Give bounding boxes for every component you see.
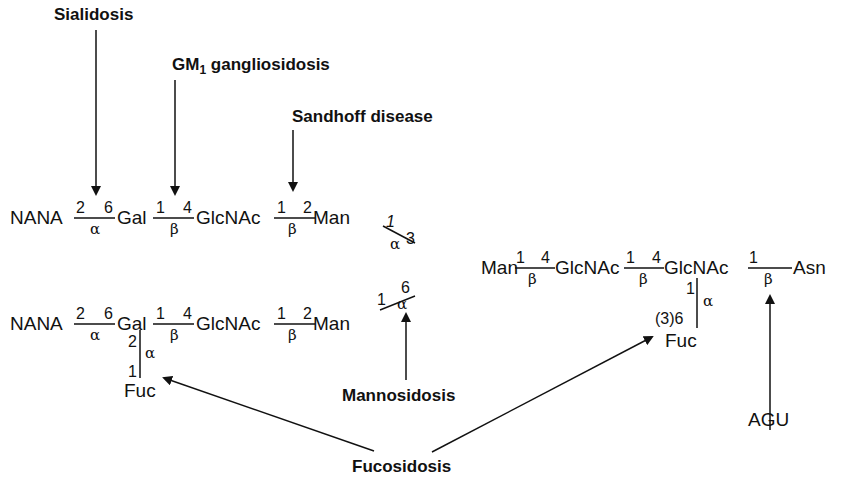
anomer: α <box>90 222 100 237</box>
link-num: 4 <box>541 250 550 266</box>
anomer: α <box>397 297 407 312</box>
link-num: 6 <box>401 280 410 296</box>
anomer: β <box>288 328 297 343</box>
link-num: 1 <box>386 214 395 230</box>
residue-glcnac-core-1: GlcNAc <box>555 258 619 277</box>
anomer: β <box>288 222 297 237</box>
label-mannosidosis: Mannosidosis <box>342 387 455 404</box>
link-num: 1 <box>626 250 635 266</box>
link-num: 4 <box>183 200 192 216</box>
residue-man-lower: Man <box>313 314 350 333</box>
label-sandhoff-disease: Sandhoff disease <box>292 108 433 125</box>
anomer: α <box>90 328 100 343</box>
residue-gal-upper: Gal <box>117 208 147 227</box>
residue-man-upper: Man <box>313 208 350 227</box>
link-num: 1 <box>277 306 286 322</box>
residue-fuc-core: Fuc <box>665 331 697 350</box>
link-num: 6 <box>104 200 113 216</box>
link-num: 2 <box>76 306 85 322</box>
link-num: 3 <box>406 231 415 247</box>
link-num: 1 <box>377 292 386 308</box>
residue-asn: Asn <box>793 258 826 277</box>
link-num: 4 <box>652 250 661 266</box>
link-num: 1 <box>516 250 525 266</box>
residue-nana-lower: NANA <box>10 314 63 333</box>
gm1-prefix: GM <box>172 55 199 74</box>
link-num: 4 <box>183 306 192 322</box>
residue-glcnac-upper: GlcNAc <box>196 208 260 227</box>
anomer: α <box>390 237 400 252</box>
link-num: 1 <box>277 200 286 216</box>
link-num: 2 <box>303 200 312 216</box>
branch-num: 2 <box>128 334 137 350</box>
anomer: β <box>639 272 648 287</box>
label-agu: AGU <box>748 410 789 429</box>
link-num: 1 <box>156 200 165 216</box>
anomer: β <box>170 328 179 343</box>
residue-glcnac-lower: GlcNAc <box>196 314 260 333</box>
arrows-layer <box>0 0 856 477</box>
residue-gal-lower: Gal <box>117 314 147 333</box>
residue-glcnac-core-2: GlcNAc <box>664 258 728 277</box>
gm1-suffix: gangliosidosis <box>206 55 330 74</box>
arrow-fucosidosis-right <box>432 337 652 452</box>
residue-nana-upper: NANA <box>10 208 63 227</box>
link-num: 2 <box>303 306 312 322</box>
link-num: 6 <box>104 306 113 322</box>
label-fucosidosis: Fucosidosis <box>352 458 451 475</box>
link-num: 2 <box>76 200 85 216</box>
label-sialidosis: Sialidosis <box>54 6 133 23</box>
link-num: 1 <box>749 250 758 266</box>
branch-num: 1 <box>686 281 695 297</box>
branch-num: (3)6 <box>655 311 683 327</box>
label-gm1-gangliosidosis: GM1 gangliosidosis <box>172 56 330 79</box>
residue-fuc-lower: Fuc <box>124 381 156 400</box>
link-num: 1 <box>156 306 165 322</box>
branch-num: 1 <box>128 364 137 380</box>
anomer: α <box>145 346 155 361</box>
anomer: β <box>528 272 537 287</box>
anomer: α <box>703 294 713 309</box>
residue-man-core: Man <box>481 258 518 277</box>
anomer: β <box>764 272 773 287</box>
anomer: β <box>170 222 179 237</box>
